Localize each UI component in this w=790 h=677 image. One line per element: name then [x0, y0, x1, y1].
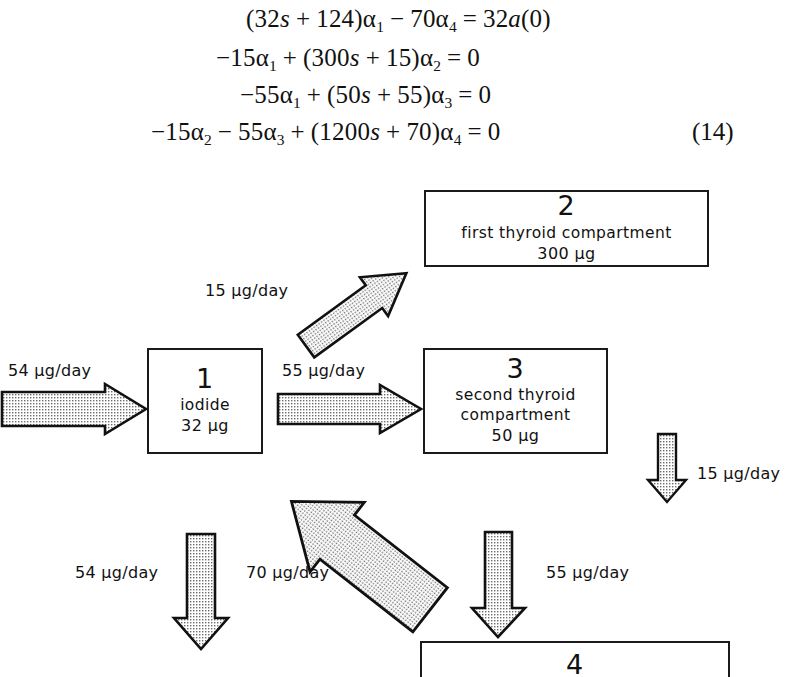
- flow-label-1-outflow: 54 µg/day: [75, 563, 158, 582]
- compartment-diagram: 2 first thyroid compartment 300 µg 1 iod…: [0, 0, 790, 677]
- flow-label-1-to-2: 15 µg/day: [205, 281, 288, 300]
- compartment-2-amount: 300 µg: [537, 244, 595, 265]
- arrow-2-to-4: [645, 432, 693, 504]
- arrow-4-to-1: [265, 480, 455, 630]
- compartment-3-name-line1: second thyroid: [455, 386, 576, 405]
- arrow-input-to-1: [0, 382, 150, 438]
- compartment-3-number: 3: [506, 355, 524, 383]
- compartment-3-amount: 50 µg: [492, 426, 540, 447]
- flow-label-1-to-3: 55 µg/day: [282, 361, 365, 380]
- page-canvas: p y (32s+124)α1−70α4=32a(0) −15α1+(300s+…: [0, 0, 790, 677]
- arrow-3-to-4: [464, 530, 534, 640]
- compartment-box-3[interactable]: 3 second thyroid compartment 50 µg: [423, 348, 608, 454]
- flow-label-4-to-1: 70 µg/day: [246, 563, 329, 582]
- flow-label-2-to-4: 15 µg/day: [697, 464, 780, 483]
- compartment-box-1[interactable]: 1 iodide 32 µg: [147, 348, 263, 454]
- flow-label-input: 54 µg/day: [8, 361, 91, 380]
- compartment-2-name: first thyroid compartment: [461, 224, 671, 243]
- compartment-1-amount: 32 µg: [181, 416, 229, 437]
- arrow-1-to-2: [290, 262, 425, 357]
- compartment-2-number: 2: [557, 192, 575, 220]
- compartment-box-2[interactable]: 2 first thyroid compartment 300 µg: [424, 190, 709, 267]
- compartment-1-number: 1: [196, 365, 214, 393]
- compartment-3-name-line2: compartment: [461, 406, 571, 425]
- flow-label-3-to-4: 55 µg/day: [546, 563, 629, 582]
- arrow-1-to-3: [276, 382, 423, 438]
- compartment-4-number: 4: [566, 651, 584, 677]
- arrow-1-outflow: [166, 532, 236, 652]
- compartment-1-name: iodide: [180, 396, 230, 415]
- compartment-box-4[interactable]: 4: [420, 641, 730, 677]
